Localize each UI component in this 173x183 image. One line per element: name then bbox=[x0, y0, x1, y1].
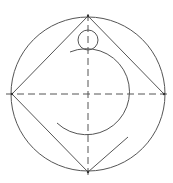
partial-square-edge bbox=[88, 137, 128, 172]
vertex-bottom bbox=[87, 171, 89, 173]
vertex-top bbox=[87, 15, 89, 17]
vertex-right bbox=[163, 93, 165, 95]
diagram-canvas: Geometric construction: circle with insc… bbox=[0, 0, 173, 183]
geometry-drawing bbox=[0, 0, 173, 183]
open-arc bbox=[57, 49, 129, 135]
vertex-left bbox=[11, 93, 13, 95]
